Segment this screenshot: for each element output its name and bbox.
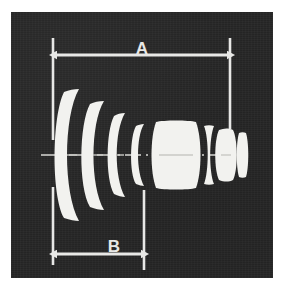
dimension-b-label: B [101, 238, 127, 255]
lens-element-thin-meniscus [131, 124, 144, 186]
dimension-a-label: A [129, 40, 155, 57]
diagram-panel: A B [11, 12, 273, 278]
lens-element-group [55, 89, 249, 221]
figure-root: A B [0, 0, 288, 296]
lens-element-rear-thin-biconvex [237, 132, 249, 178]
